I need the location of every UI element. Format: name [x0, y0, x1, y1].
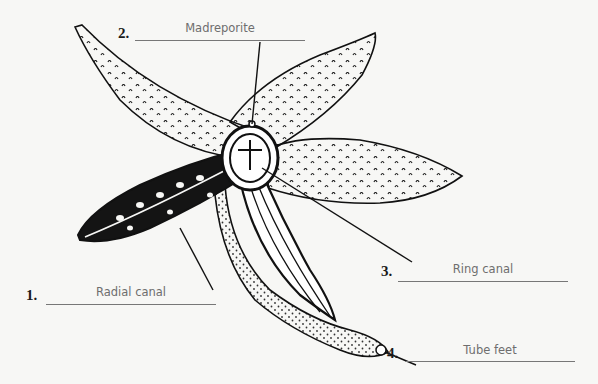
arm-right: [268, 139, 462, 204]
starfish-diagram: 1. Radial canal 2. Madreporite 3. Ring c…: [0, 0, 598, 384]
label-number-2: 2.: [118, 25, 129, 42]
answer-radial-canal: Radial canal: [46, 285, 216, 299]
answer-ring-canal: Ring canal: [398, 262, 568, 276]
answer-line-1: [46, 304, 216, 305]
label-number-4: 4.: [387, 345, 398, 362]
answer-tube-feet: Tube feet: [405, 343, 575, 357]
starfish-illustration: [0, 0, 598, 384]
answer-line-4: [405, 361, 575, 362]
answer-line-3: [398, 281, 568, 282]
leader-line-1: [180, 228, 213, 290]
answer-line-2: [135, 40, 305, 41]
answer-madreporite: Madreporite: [135, 21, 305, 35]
label-number-1: 1.: [26, 287, 37, 304]
label-number-3: 3.: [381, 263, 392, 280]
